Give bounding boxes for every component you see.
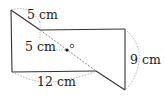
- edge-e-f: [12, 71, 96, 72]
- label-top-5cm: 5 cm: [27, 7, 58, 22]
- center-point-o-icon: [70, 44, 74, 48]
- edge-b-c: [40, 29, 125, 30]
- label-inner-5cm: 5 cm: [25, 39, 56, 54]
- edge-a-e: [11, 10, 12, 72]
- center-point-dot: [65, 48, 68, 51]
- label-9cm: 9 cm: [130, 52, 161, 67]
- edge-f-d: [96, 71, 125, 90]
- label-12cm: 12 cm: [37, 74, 76, 89]
- geometry-diagram: 5 cm 5 cm 12 cm 9 cm: [0, 0, 166, 100]
